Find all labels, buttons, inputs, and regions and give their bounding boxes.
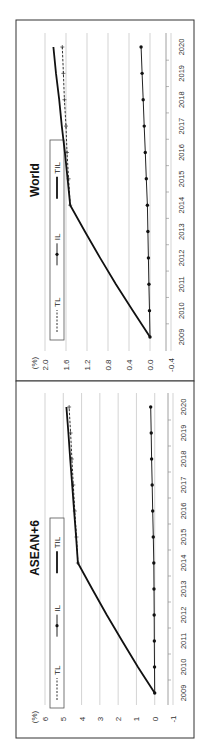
y-tick-label: 0.4 xyxy=(125,359,134,371)
x-tick-label: 2011 xyxy=(177,276,186,292)
chart-border xyxy=(16,20,194,381)
rotated-chart-figure: 2.01.61.20.80.40.0-0.4200920102011201220… xyxy=(0,0,204,747)
x-tick-label: 2017 xyxy=(179,477,188,494)
chart-panel-asean6: 6543210-12009201020112012201320142015201… xyxy=(16,381,194,738)
dot-marker xyxy=(146,230,149,233)
y-tick-label: -0.4 xyxy=(167,358,176,372)
y-tick-label: 1.2 xyxy=(83,359,92,371)
x-tick-label: 2019 xyxy=(179,425,188,442)
dot-marker xyxy=(146,203,149,206)
dot-marker xyxy=(139,45,142,48)
x-tick-label: 2014 xyxy=(179,555,188,572)
y-tick-label: 4 xyxy=(78,716,87,721)
x-tick-label: 2011 xyxy=(179,633,188,649)
x-tick-label: 2012 xyxy=(177,250,186,267)
x-tick-label: 2018 xyxy=(179,451,188,468)
dot-marker xyxy=(152,613,155,616)
x-tick-label: 2010 xyxy=(179,659,188,676)
dot-marker xyxy=(141,98,144,101)
y-tick-label: 2 xyxy=(114,716,123,721)
x-tick-label: 2020 xyxy=(179,399,188,416)
legend-marker-dot xyxy=(55,624,58,627)
dot-marker xyxy=(147,283,150,286)
dot-marker xyxy=(148,309,151,312)
legend-marker-dot xyxy=(55,253,58,256)
x-tick-label: 2015 xyxy=(179,529,188,546)
chart-title: World xyxy=(28,163,42,197)
dot-marker xyxy=(152,561,155,564)
x-tick-label: 2012 xyxy=(179,607,188,624)
dot-marker xyxy=(140,72,143,75)
legend-label: IL xyxy=(53,233,62,240)
y-tick-label: 2.0 xyxy=(41,359,50,371)
y-tick-label: -1 xyxy=(169,715,178,723)
dot-marker xyxy=(152,587,155,590)
dot-marker xyxy=(153,665,156,668)
y-tick-label: 0.8 xyxy=(104,359,113,371)
legend-label: TIL xyxy=(53,162,62,174)
dot-marker xyxy=(150,457,153,460)
legend-label: TL xyxy=(53,665,62,675)
x-tick-label: 2016 xyxy=(179,503,188,520)
x-tick-label: 2017 xyxy=(177,118,186,135)
dot-marker xyxy=(152,535,155,538)
dot-marker xyxy=(145,177,148,180)
x-tick-label: 2016 xyxy=(177,144,186,161)
y-tick-label: 0.0 xyxy=(146,359,155,371)
dot-marker xyxy=(143,124,146,127)
y-tick-label: 1.6 xyxy=(62,359,71,371)
dot-marker xyxy=(144,151,147,154)
unit-label: (%) xyxy=(30,356,39,369)
dot-marker xyxy=(150,483,153,486)
x-tick-label: 2009 xyxy=(179,685,188,702)
y-tick-label: 5 xyxy=(59,716,68,721)
legend-label: TL xyxy=(53,297,62,307)
x-tick-label: 2020 xyxy=(177,39,186,56)
x-tick-label: 2015 xyxy=(177,170,186,187)
chart-panel-world: 2.01.61.20.80.40.0-0.4200920102011201220… xyxy=(16,20,194,381)
x-tick-label: 2010 xyxy=(177,302,186,319)
y-tick-label: 3 xyxy=(96,716,105,721)
dot-marker xyxy=(150,431,153,434)
x-tick-label: 2019 xyxy=(177,65,186,82)
dot-marker xyxy=(151,509,154,512)
x-tick-label: 2014 xyxy=(177,197,186,214)
legend-label: IL xyxy=(53,604,62,611)
legend-label: TIL xyxy=(53,536,62,548)
y-tick-label: 6 xyxy=(41,716,50,721)
x-tick-label: 2009 xyxy=(177,329,186,346)
y-tick-label: 1 xyxy=(132,716,141,721)
x-tick-label: 2018 xyxy=(177,91,186,108)
unit-label: (%) xyxy=(30,710,39,723)
dot-marker xyxy=(149,405,152,408)
chart-border xyxy=(16,381,194,738)
x-tick-label: 2013 xyxy=(177,223,186,240)
figure: 2.01.61.20.80.40.0-0.4200920102011201220… xyxy=(0,0,204,747)
dot-marker xyxy=(153,639,156,642)
y-tick-label: 0 xyxy=(151,716,160,721)
x-tick-label: 2013 xyxy=(179,581,188,598)
chart-title: ASEAN+6 xyxy=(28,520,42,576)
dot-marker xyxy=(147,256,150,259)
